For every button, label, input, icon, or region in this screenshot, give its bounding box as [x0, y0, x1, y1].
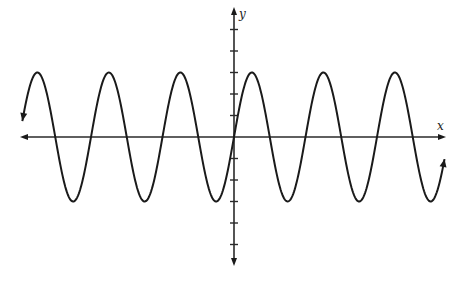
curve-left-arrow — [20, 113, 27, 121]
y-axis-label: y — [238, 7, 246, 21]
y-axis-bottom-arrow — [231, 258, 237, 266]
chart: x y — [0, 0, 465, 283]
axes — [20, 7, 446, 266]
y-axis-top-arrow — [231, 7, 237, 15]
x-axis-label: x — [437, 119, 444, 133]
curve-right-arrow — [440, 159, 447, 168]
x-axis-left-arrow — [20, 134, 28, 140]
x-axis-right-arrow — [438, 134, 446, 140]
